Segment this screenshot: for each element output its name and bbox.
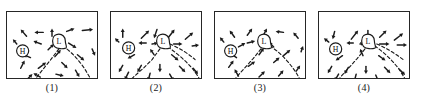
wind-arrow	[56, 73, 64, 77]
panel-canvas: HL	[319, 12, 409, 78]
wind-arrow	[274, 58, 280, 63]
wind-arrow	[351, 30, 358, 39]
panel-canvas: HL	[7, 12, 97, 78]
wind-arrow	[332, 31, 336, 39]
wind-arrow	[115, 38, 119, 42]
high-pressure-marker: H	[330, 43, 342, 55]
wind-arrow	[394, 33, 403, 40]
high-pressure-marker: H	[225, 45, 237, 57]
wind-arrow	[174, 42, 183, 46]
wind-arrow	[33, 41, 41, 45]
wind-arrow	[364, 66, 368, 74]
panel-canvas: HL	[111, 12, 201, 78]
weather-panel: HL(4)	[312, 0, 416, 104]
wind-arrow	[192, 44, 199, 48]
high-pressure-label: H	[228, 47, 234, 56]
wind-arrow	[138, 41, 146, 45]
wind-arrow	[158, 64, 162, 72]
wind-arrow	[399, 69, 405, 75]
wind-arrow	[247, 40, 255, 44]
wind-arrow	[75, 70, 79, 77]
high-pressure-marker: H	[17, 45, 29, 57]
high-pressure-label: H	[126, 44, 132, 53]
wind-arrow	[335, 74, 339, 78]
wind-arrow	[259, 71, 265, 77]
wind-arrow	[34, 30, 43, 34]
wind-arrow	[170, 74, 174, 78]
wind-arrow	[300, 46, 304, 52]
high-pressure-marker: H	[123, 42, 135, 54]
wind-arrow	[380, 42, 390, 46]
high-pressure-label: H	[333, 45, 339, 54]
wind-arrow	[293, 32, 298, 38]
wind-arrow	[179, 66, 185, 72]
wind-arrow	[385, 67, 391, 73]
wind-arrow	[21, 29, 27, 36]
high-pressure-label: H	[20, 47, 26, 56]
wind-arrow	[119, 65, 123, 72]
low-pressure-marker: L	[157, 34, 171, 49]
wind-arrow	[380, 30, 387, 37]
panel-caption: (3)	[208, 82, 312, 94]
wind-arrow	[150, 49, 154, 55]
wind-arrow	[67, 28, 75, 32]
wind-arrow	[276, 30, 284, 34]
wind-arrow	[82, 28, 93, 32]
wind-arrow	[77, 55, 84, 61]
wind-arrow	[344, 67, 348, 74]
wind-arrow	[125, 72, 129, 78]
weather-panel: HL(2)	[104, 0, 208, 104]
wind-arrow	[21, 61, 25, 69]
wind-arrow	[13, 39, 17, 44]
low-pressure-label: L	[262, 37, 267, 46]
wind-arrow	[247, 29, 252, 36]
wind-arrow	[235, 69, 239, 76]
wind-arrow	[62, 62, 68, 68]
weather-map-panel-figure: HL(1)HL(2)HL(3)HL(4)	[0, 0, 438, 104]
wind-arrow	[336, 56, 343, 61]
weather-panel: HL(1)	[0, 0, 104, 104]
low-pressure-marker: L	[53, 34, 67, 49]
wind-arrow	[375, 75, 379, 78]
wind-arrow	[324, 38, 329, 42]
panel-border: HL	[214, 11, 306, 79]
wind-arrow	[92, 49, 96, 56]
wind-arrow	[147, 73, 151, 78]
wind-arrow	[379, 56, 386, 61]
low-pressure-label: L	[366, 37, 371, 46]
panel-border: HL	[110, 11, 202, 79]
wind-arrow	[238, 43, 245, 47]
weather-panel: HL(3)	[208, 0, 312, 104]
panel-caption: (2)	[104, 82, 208, 94]
panel-canvas: HL	[215, 12, 305, 78]
wind-arrow	[121, 29, 125, 38]
wind-arrow	[220, 37, 224, 42]
wind-arrow	[69, 43, 77, 48]
wind-arrow	[185, 32, 193, 39]
panel-border: HL	[6, 11, 98, 79]
wind-arrow	[128, 55, 135, 59]
wind-arrow	[141, 30, 149, 38]
wind-arrow	[172, 55, 179, 61]
low-pressure-label: L	[56, 37, 61, 46]
panel-caption: (1)	[0, 82, 104, 94]
low-pressure-label: L	[160, 37, 165, 46]
wind-arrow	[283, 50, 290, 56]
low-pressure-marker: L	[362, 34, 376, 49]
panel-border: HL	[318, 11, 410, 79]
wind-arrow	[346, 41, 353, 45]
wind-arrow	[397, 43, 407, 47]
wind-arrow	[296, 65, 300, 71]
low-pressure-marker: L	[258, 34, 272, 49]
wind-arrow	[27, 74, 33, 78]
frontal-boundary-line	[63, 46, 95, 78]
panel-caption: (4)	[312, 82, 416, 94]
wind-arrow	[50, 29, 54, 37]
wind-arrow	[153, 29, 157, 38]
wind-arrow	[230, 30, 235, 37]
wind-arrow	[328, 66, 332, 73]
wind-arrow	[353, 74, 357, 78]
wind-arrow	[279, 70, 284, 76]
wind-arrow	[229, 61, 234, 68]
